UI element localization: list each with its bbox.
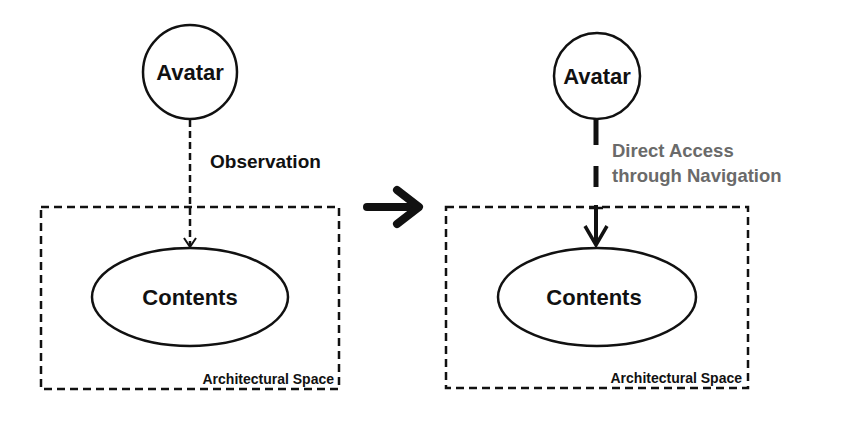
left-avatar-label: Avatar xyxy=(156,60,224,85)
left-observation-label: Observation xyxy=(210,151,321,172)
right-avatar-label: Avatar xyxy=(563,64,631,89)
left-panel: Avatar Observation Contents Architectura… xyxy=(41,25,339,389)
right-direct-access-label-line2: through Navigation xyxy=(612,165,782,186)
right-direct-access-edge xyxy=(589,119,603,245)
left-contents-label: Contents xyxy=(142,285,237,310)
left-architectural-space-label: Architectural Space xyxy=(203,371,335,387)
diagram-canvas: Avatar Observation Contents Architectura… xyxy=(0,0,853,422)
right-architectural-space-label: Architectural Space xyxy=(611,370,743,386)
right-direct-access-label-line1: Direct Access xyxy=(612,140,734,161)
right-panel: Avatar Direct Access through Navigation … xyxy=(446,33,782,388)
right-contents-label: Contents xyxy=(546,285,641,310)
right-arrow-icon xyxy=(367,190,419,224)
